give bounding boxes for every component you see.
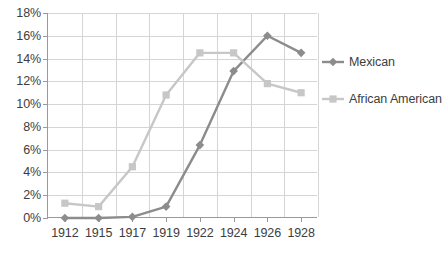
y-axis-tick-label: 4% — [23, 165, 41, 179]
y-axis-tick-label: 12% — [16, 74, 41, 88]
legend-marker — [329, 58, 338, 67]
diamond-marker-icon — [322, 56, 344, 68]
legend-item-mexican[interactable]: Mexican — [322, 55, 442, 69]
data-point — [129, 163, 136, 170]
legend-item-label: African American — [349, 92, 442, 106]
y-axis-tick-label: 0% — [23, 211, 41, 225]
series-african-american — [61, 49, 304, 210]
data-point — [297, 49, 306, 58]
y-tick-mark — [43, 218, 48, 219]
legend-item-african-american[interactable]: African American — [322, 92, 442, 106]
chart-legend: MexicanAfrican American — [322, 55, 442, 106]
plot-area: 0%2%4%6%8%10%12%14%16%18% 19121915191719… — [47, 13, 317, 218]
x-axis-tick-label: 1924 — [220, 226, 247, 240]
data-point — [94, 214, 103, 223]
series-mexican — [61, 31, 306, 222]
legend-item-label: Mexican — [349, 55, 395, 69]
y-axis-tick-label: 2% — [23, 188, 41, 202]
data-point — [95, 203, 102, 210]
series-line — [65, 36, 301, 218]
x-axis-tick-label: 1926 — [254, 226, 281, 240]
y-axis-tick-label: 10% — [16, 97, 41, 111]
x-axis-tick-label: 1915 — [85, 226, 112, 240]
square-marker-icon — [322, 93, 344, 105]
y-axis-tick-label: 18% — [16, 6, 41, 20]
x-axis-tick-label: 1917 — [119, 226, 146, 240]
series-line — [65, 53, 301, 207]
legend-marker — [329, 95, 336, 102]
data-point — [163, 91, 170, 98]
data-point — [298, 89, 305, 96]
y-axis-tick-label: 8% — [23, 120, 41, 134]
x-axis-tick-label: 1919 — [152, 226, 179, 240]
y-axis-tick-label: 6% — [23, 143, 41, 157]
x-axis-tick-label: 1928 — [287, 226, 314, 240]
data-point — [61, 200, 68, 207]
data-point — [196, 49, 203, 56]
x-axis-tick-label: 1912 — [51, 226, 78, 240]
x-axis-tick-label: 1922 — [186, 226, 213, 240]
data-point — [264, 80, 271, 87]
series-plot — [48, 13, 318, 218]
y-axis-tick-label: 14% — [16, 52, 41, 66]
y-axis-tick-label: 16% — [16, 29, 41, 43]
data-point — [128, 213, 137, 222]
gridline-vertical — [318, 13, 319, 217]
data-point — [61, 214, 70, 223]
data-point — [230, 49, 237, 56]
